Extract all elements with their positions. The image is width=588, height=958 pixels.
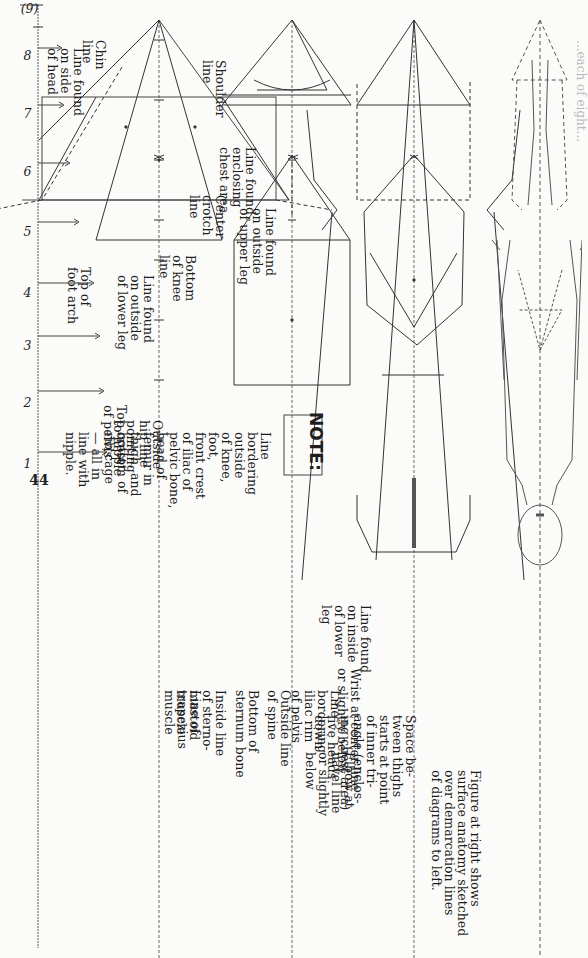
- diagram-4-anatomy-figure: [492, 20, 582, 958]
- scale-mark-5: 5: [24, 225, 32, 238]
- label-bottom-knee: Bottom of knee line: [158, 255, 197, 302]
- label-outside-upper-leg: Line found on outside of upper leg: [238, 208, 277, 285]
- figure-number: (9): [21, 2, 39, 15]
- label-center-crotch: Center crotch line: [188, 195, 227, 238]
- scale-mark-8: 8: [24, 49, 32, 62]
- scale-mark-1: 1: [24, 457, 32, 470]
- scale-mark-4: 4: [24, 286, 32, 299]
- label-sternum: Bottom of sternum bone: [234, 690, 260, 778]
- figure-caption: Figure at right shows surface anatomy sk…: [430, 770, 482, 936]
- page-number: 44: [29, 472, 48, 488]
- label-sterno-mastoid: Inside line of sterno- mastoid muscle: [175, 690, 227, 756]
- note-heading: NOTE:: [309, 412, 322, 471]
- label-top-foot-arch: Top of foot arch: [66, 267, 92, 324]
- label-shoulder-line: Shoulder line: [201, 60, 227, 118]
- label-space-thighs: Space be- tween thighs starts at point o…: [313, 715, 417, 810]
- label-outside-lower-leg: Line found on outside of lower leg: [116, 275, 155, 350]
- diagram-3-torso-construction: [302, 20, 524, 958]
- scale-mark-7: 7: [24, 107, 32, 120]
- note-body: Line bordering outside of knee, foot, fr…: [64, 432, 272, 508]
- scale-mark-6: 6: [24, 165, 32, 178]
- scale-mark-3: 3: [24, 339, 32, 352]
- label-inside-lower-leg: Line found on inside of lower leg: [320, 605, 372, 673]
- scale-mark-2: 2: [24, 396, 32, 409]
- label-line-side-head: Line found on side of head: [46, 48, 85, 116]
